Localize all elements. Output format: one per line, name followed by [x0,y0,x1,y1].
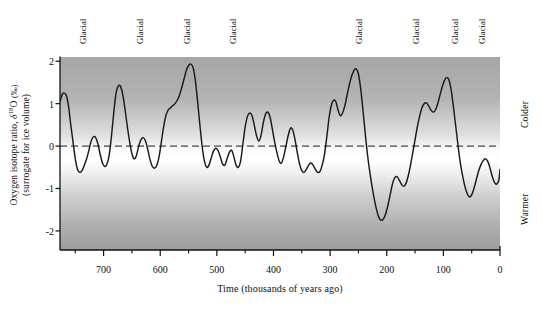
y-tick-label: 2 [36,56,54,67]
x-tick-label: 300 [323,264,338,275]
y-axis-title-line-2: (surrogate for ice volume) [22,93,32,195]
y-tick-label: 0 [36,141,54,152]
plot-svg [0,0,542,309]
glacial-label: Glacial [78,18,88,44]
glacial-label: Glacial [354,18,364,44]
y-tick-label: 1 [36,98,54,109]
glacial-label: Glacial [228,18,238,44]
x-axis-title: Time (thousands of years ago) [60,283,500,294]
glacial-label: Glacial [450,18,460,44]
y-tick-label: -1 [36,183,54,194]
x-tick-marks [75,250,500,256]
x-tick-label: 0 [498,264,503,275]
x-tick-label: 600 [153,264,168,275]
delta-symbol: δ [9,114,19,119]
x-tick-label: 200 [379,264,394,275]
colder-annotation: Colder [520,101,530,128]
y-axis-title-line-1: Oxygen isotope ratio, δ18O (‰) [10,84,20,205]
y-axis-title-prefix: Oxygen isotope ratio, [9,118,19,205]
glacial-label: Glacial [411,18,421,44]
x-tick-label: 400 [266,264,281,275]
y-tick-label: -2 [36,225,54,236]
isotope-mass-superscript: 18 [7,107,14,114]
glacial-label: Glacial [135,18,145,44]
x-tick-label: 700 [96,264,111,275]
y-tick-marks [56,61,61,231]
plot-background [60,57,500,250]
oxygen-symbol: O [9,98,19,107]
figure-container: Oxygen isotope ratio, δ18O (‰) (surrogat… [0,0,542,309]
glacial-label: Glacial [182,18,192,44]
glacial-label: Glacial [477,18,487,44]
permil-units: (‰) [10,84,19,98]
x-tick-label: 100 [436,264,451,275]
x-tick-label: 500 [209,264,224,275]
warmer-annotation: Warmer [520,193,530,225]
